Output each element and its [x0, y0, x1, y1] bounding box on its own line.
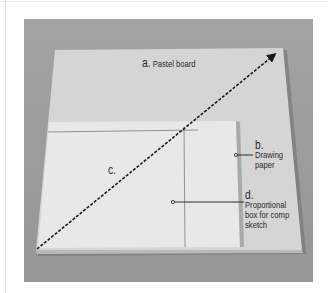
- label-d-line-3: sketch: [245, 220, 289, 230]
- label-proportional-box: d. Proportional box for comp sketch: [245, 190, 289, 230]
- drawing-paper: [38, 121, 240, 248]
- label-b-line-1: Drawing: [255, 150, 283, 160]
- label-diagonal: c.: [108, 165, 116, 175]
- label-drawing-paper: b. Drawing paper: [255, 140, 283, 170]
- label-d-line-1: Proportional: [245, 200, 289, 210]
- label-a-letter: a.: [142, 56, 151, 70]
- label-pastel-board: a. Pastel board: [142, 58, 196, 69]
- label-b-line-2: paper: [255, 160, 283, 170]
- label-d-letter: d.: [245, 190, 289, 200]
- label-c-letter: c.: [108, 163, 116, 177]
- label-b-letter: b.: [255, 140, 283, 150]
- label-a-text: Pastel board: [153, 59, 196, 69]
- label-d-line-2: box for comp: [245, 210, 289, 220]
